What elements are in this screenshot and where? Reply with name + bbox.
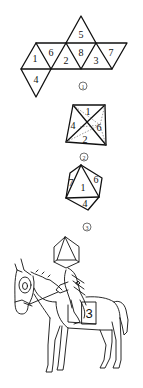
jockey — [56, 268, 86, 324]
horse-ear-left — [15, 264, 22, 272]
horse-rider-illustration: 3 — [15, 237, 128, 372]
face-label-3: 3 — [94, 55, 99, 66]
face-label-7: 7 — [109, 47, 114, 58]
horse-tail — [114, 301, 128, 335]
rider-octahedron-head — [54, 237, 79, 268]
octa2-label-left: 4 — [71, 120, 76, 131]
octa3-label-left: 7 — [69, 177, 74, 188]
head-face-edges — [57, 237, 76, 260]
octa3-label-center: 1 — [81, 182, 86, 193]
octahedron-view-3: 7 1 6 4 3 — [66, 165, 102, 231]
caption-1: 1 — [82, 84, 85, 90]
face-label-6: 6 — [49, 47, 54, 58]
horse-hind-leg-left — [100, 330, 112, 368]
octa2-label-bottom: 2 — [83, 134, 88, 145]
diagram-canvas: 5 1 6 2 8 3 7 4 1 1 4 6 2 2 7 1 6 — [0, 0, 143, 388]
horse: 3 — [15, 259, 128, 372]
jockey-back — [68, 268, 86, 305]
net-zigzag — [36, 43, 112, 69]
horse-chest — [34, 294, 50, 318]
octa3-label-bottom: 4 — [83, 198, 88, 209]
face-label-1: 1 — [33, 53, 38, 64]
horse-eye — [23, 283, 28, 290]
jockey-leg — [71, 300, 80, 324]
horse-front-leg-right — [57, 326, 68, 370]
octa2-label-right: 6 — [97, 122, 102, 133]
horse-mane — [31, 270, 62, 290]
octa2-label-top: 1 — [86, 106, 91, 117]
face-label-4: 4 — [34, 74, 39, 85]
horse-blinker — [19, 277, 31, 293]
jockey-front — [65, 270, 73, 308]
octahedron-net: 5 1 6 2 8 3 7 4 1 — [21, 16, 127, 97]
saddle-number: 3 — [85, 306, 92, 321]
caption-3: 3 — [86, 225, 89, 231]
face-label-5: 5 — [79, 29, 84, 40]
horse-ear-right — [21, 259, 31, 275]
head-outline — [54, 237, 79, 268]
horse-hind-leg-right — [112, 318, 121, 368]
octahedron-view-2: 1 4 6 2 2 — [66, 105, 106, 161]
caption-2: 2 — [83, 155, 86, 161]
horse-belly — [56, 302, 112, 330]
face-label-8: 8 — [79, 47, 84, 58]
octa3-label-right: 6 — [94, 174, 99, 185]
face-label-2: 2 — [64, 55, 69, 66]
